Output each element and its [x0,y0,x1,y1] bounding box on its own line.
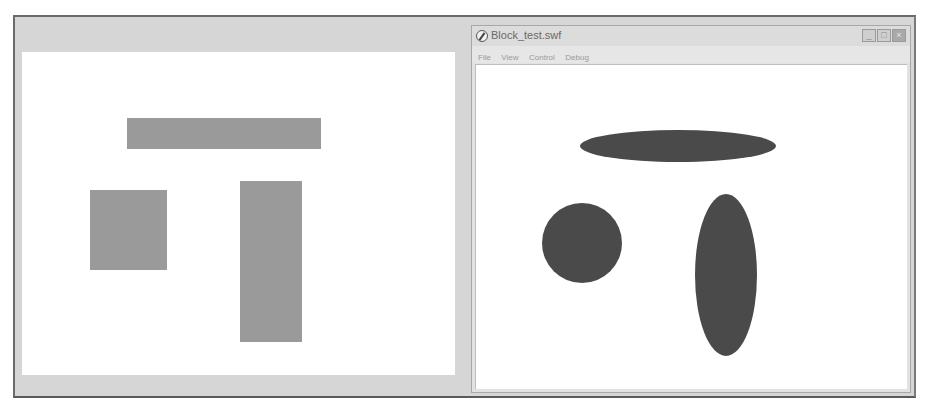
maximize-button[interactable]: □ [877,29,891,42]
vertical-ellipse [695,194,757,356]
close-button[interactable]: × [892,29,906,42]
horizontal-ellipse [580,130,776,162]
vertical-bar [240,181,302,342]
menu-file[interactable]: File [478,53,491,62]
title-bar[interactable]: Block_test.swf _ □ × [472,26,910,46]
menu-bar: File View Control Debug [472,46,910,63]
circle [542,203,622,283]
menu-control[interactable]: Control [529,53,555,62]
menu-debug[interactable]: Debug [565,53,589,62]
flash-app-icon [476,30,488,42]
window-title: Block_test.swf [491,29,561,41]
swf-stage [475,64,907,389]
left-canvas [22,52,455,375]
flash-player-window: Block_test.swf _ □ × File View Control D… [471,25,911,393]
horizontal-bar [127,118,321,149]
menu-view[interactable]: View [501,53,518,62]
square [90,190,167,270]
minimize-button[interactable]: _ [862,29,876,42]
